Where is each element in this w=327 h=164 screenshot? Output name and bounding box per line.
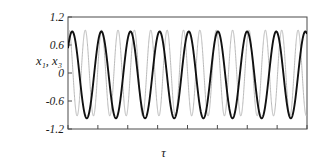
y-tick-label: 0 — [30, 67, 64, 79]
y-tick-label-group: 1.2 0.6 0 -0.6 -1.2 — [26, 0, 64, 164]
figure-container: x₁, x₃ 1.2 0.6 0 -0.6 -1.2 τ — [0, 0, 327, 164]
y-tick-label: -1.2 — [30, 123, 64, 135]
x-axis-label-text: τ — [161, 146, 165, 160]
y-tick-label: 0.6 — [30, 39, 64, 51]
x-axis-label: τ — [0, 146, 327, 161]
y-tick-label: -0.6 — [30, 95, 64, 107]
y-tick-label: 1.2 — [30, 11, 64, 23]
